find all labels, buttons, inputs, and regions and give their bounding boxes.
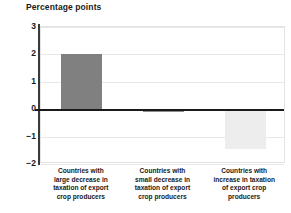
category-label-1-line4: crop producers bbox=[123, 193, 203, 202]
bar-chart: Percentage points 3210−1−2 Countries wit… bbox=[0, 0, 291, 213]
plot-area bbox=[40, 26, 285, 163]
category-label-0: Countries with large decrease in taxatio… bbox=[40, 167, 122, 213]
category-label-1-line3: taxation of export bbox=[123, 184, 203, 193]
category-label-1: Countries with small decrease in taxatio… bbox=[122, 167, 204, 213]
x-axis-category-labels: Countries with large decrease in taxatio… bbox=[40, 167, 285, 213]
category-label-0-line2: large decrease in bbox=[41, 176, 121, 185]
category-label-2-line2: increase in taxation bbox=[204, 176, 284, 185]
y-tick-label-4: −1 bbox=[2, 131, 36, 140]
gridline-3 bbox=[41, 27, 284, 28]
bar-2 bbox=[225, 109, 266, 149]
category-label-2: Countries with increase in taxation of e… bbox=[203, 167, 285, 213]
y-tick-label-1: 2 bbox=[2, 49, 36, 58]
category-label-0-line1: Countries with bbox=[41, 167, 121, 176]
y-axis-tick-labels: 3210−1−2 bbox=[0, 0, 36, 213]
y-tick-label-5: −2 bbox=[2, 159, 36, 168]
category-label-2-line4: producers bbox=[204, 193, 284, 202]
category-label-0-line4: crop producers bbox=[41, 193, 121, 202]
bar-0 bbox=[61, 54, 102, 109]
y-tick-label-2: 1 bbox=[2, 77, 36, 86]
y-axis-title: Percentage points bbox=[26, 2, 101, 12]
category-label-0-line3: taxation of export bbox=[41, 184, 121, 193]
category-label-1-line1: Countries with bbox=[123, 167, 203, 176]
y-tick-label-0: 3 bbox=[2, 22, 36, 31]
category-label-2-line3: of export crop bbox=[204, 184, 284, 193]
zero-axis-line bbox=[35, 109, 284, 111]
gridline-−2 bbox=[41, 164, 284, 165]
category-label-1-line2: small decrease in bbox=[123, 176, 203, 185]
category-label-2-line1: Countries with bbox=[204, 167, 284, 176]
y-tick-label-3: 0 bbox=[2, 104, 36, 113]
